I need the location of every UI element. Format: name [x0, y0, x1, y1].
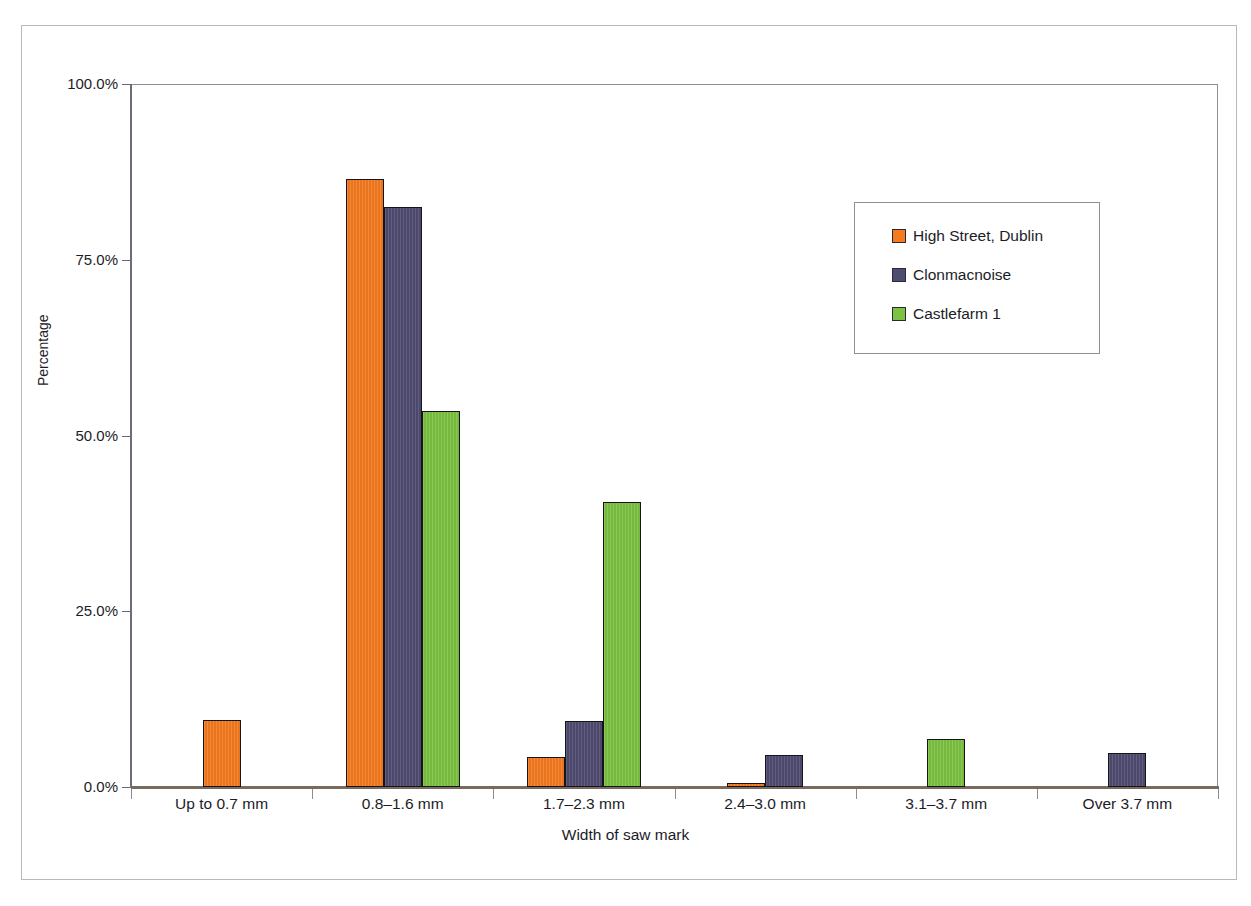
bar	[603, 502, 641, 787]
y-axis-tick	[122, 260, 131, 261]
legend-label: Castlefarm 1	[913, 305, 1001, 323]
plot-frame	[131, 84, 1218, 787]
bar	[727, 783, 765, 787]
y-axis-tick	[122, 84, 131, 85]
bar	[1108, 753, 1146, 787]
y-axis-label: 100.0%	[46, 75, 118, 92]
bar	[346, 179, 384, 787]
x-axis-label: 0.8–1.6 mm	[312, 795, 493, 813]
y-axis-label-wrap: 100.0%	[38, 84, 118, 85]
y-axis-label-wrap: 0.0%	[38, 787, 118, 788]
y-axis-label: 0.0%	[46, 778, 118, 795]
legend-item: Castlefarm 1	[892, 305, 1001, 323]
y-axis-label-wrap: 25.0%	[38, 611, 118, 612]
y-axis-label-wrap: 50.0%	[38, 436, 118, 437]
bar	[384, 207, 422, 787]
bar-chart: 0.0%25.0%50.0%75.0%100.0% Up to 0.7 mm0.…	[0, 0, 1251, 906]
y-axis-label-wrap: 75.0%	[38, 260, 118, 261]
y-axis-tick	[122, 787, 131, 788]
bar	[927, 739, 965, 787]
bar	[422, 411, 460, 787]
x-axis-label: Over 3.7 mm	[1037, 795, 1218, 813]
bar	[203, 720, 241, 787]
x-axis-tick	[1218, 789, 1219, 799]
legend-item: Clonmacnoise	[892, 266, 1011, 284]
legend-swatch-icon	[892, 307, 906, 321]
bar	[765, 755, 803, 787]
legend-label: Clonmacnoise	[913, 266, 1011, 284]
y-axis-tick	[122, 611, 131, 612]
y-axis-label: 50.0%	[46, 427, 118, 444]
y-axis-label: 25.0%	[46, 602, 118, 619]
legend-label: High Street, Dublin	[913, 227, 1043, 245]
x-axis-title: Width of saw mark	[0, 826, 1251, 844]
x-axis-label: 2.4–3.0 mm	[675, 795, 856, 813]
legend-item: High Street, Dublin	[892, 227, 1043, 245]
chart-legend: High Street, DublinClonmacnoiseCastlefar…	[854, 202, 1100, 354]
legend-swatch-icon	[892, 268, 906, 282]
y-axis-label: 75.0%	[46, 251, 118, 268]
y-axis-tick	[122, 436, 131, 437]
legend-swatch-icon	[892, 229, 906, 243]
x-axis-label: 1.7–2.3 mm	[493, 795, 674, 813]
bar	[527, 757, 565, 787]
bar	[565, 721, 603, 787]
x-axis-label: 3.1–3.7 mm	[856, 795, 1037, 813]
x-axis-label: Up to 0.7 mm	[131, 795, 312, 813]
y-axis-title: Percentage	[35, 314, 51, 386]
